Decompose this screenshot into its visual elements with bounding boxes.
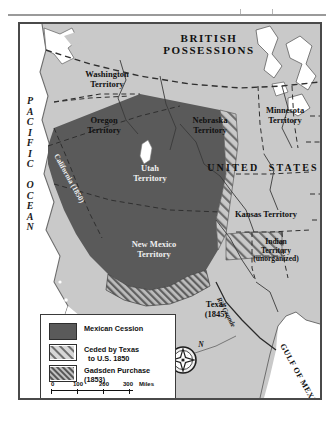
legend-label-ceded-by-texas: Ceded by Texas to U.S. 1850 — [84, 344, 139, 363]
scale-miles-ticks: 0 100 200 300 Miles — [51, 381, 163, 389]
header-rule — [8, 14, 326, 16]
map-legend: Mexican Cession Ceded by Texas to U.S. 1… — [40, 314, 176, 400]
scale-km-ticks: 0 300 Kilometers — [51, 398, 163, 400]
header-tick-right — [272, 9, 273, 14]
scale-bar-miles — [51, 390, 133, 395]
legend-label-mexican-cession: Mexican Cession — [84, 323, 143, 333]
legend-swatch-ceded-by-texas — [49, 344, 77, 361]
compass-label-group: N — [180, 340, 222, 388]
legend-swatch-gadsden-purchase — [49, 365, 77, 382]
map-page: BRITISH POSSESSIONS UNITED STATES MEXICO… — [0, 0, 335, 421]
legend-swatch-mexican-cession — [49, 323, 77, 340]
header-tick-left — [240, 9, 241, 14]
scale-bar: 0 100 200 300 Miles 0 300 Kilometers — [51, 381, 163, 400]
label-pacific-ocean: PACIF IC OCEAN — [22, 96, 40, 233]
legend-item-mexican-cession: Mexican Cession — [49, 323, 143, 340]
legend-item-ceded-by-texas: Ceded by Texas to U.S. 1850 — [49, 344, 139, 363]
map-frame: BRITISH POSSESSIONS UNITED STATES MEXICO… — [18, 22, 322, 400]
compass-north-label: N — [180, 340, 222, 349]
